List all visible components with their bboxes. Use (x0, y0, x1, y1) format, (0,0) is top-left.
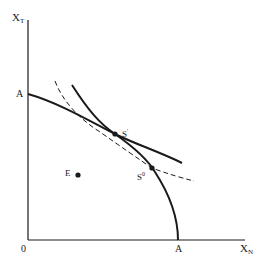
s-double-prime-label: S0 (137, 171, 145, 182)
point-e (75, 172, 80, 177)
flat-solid-curve (28, 94, 182, 163)
point-s-prime (112, 131, 117, 136)
y-intercept-label: A (16, 89, 23, 99)
y-axis-label: XT (12, 12, 24, 25)
y-axis-label-main: X (12, 11, 20, 23)
x-axis-label: XN (240, 243, 253, 256)
s-prime-mark: ' (127, 128, 128, 134)
steep-solid-curve (72, 85, 178, 240)
y-axis-label-sub: T (20, 17, 24, 25)
s-double-prime-mark: 0 (142, 171, 145, 177)
s-prime-label: S' (122, 128, 128, 139)
x-intercept-label: A (175, 244, 182, 254)
e-label: E (65, 169, 71, 178)
point-s-double-prime (149, 165, 154, 170)
x-axis-label-sub: N (248, 248, 253, 256)
origin-label: 0 (21, 244, 26, 254)
trade-diagram (0, 0, 265, 263)
x-axis-label-main: X (240, 242, 248, 254)
